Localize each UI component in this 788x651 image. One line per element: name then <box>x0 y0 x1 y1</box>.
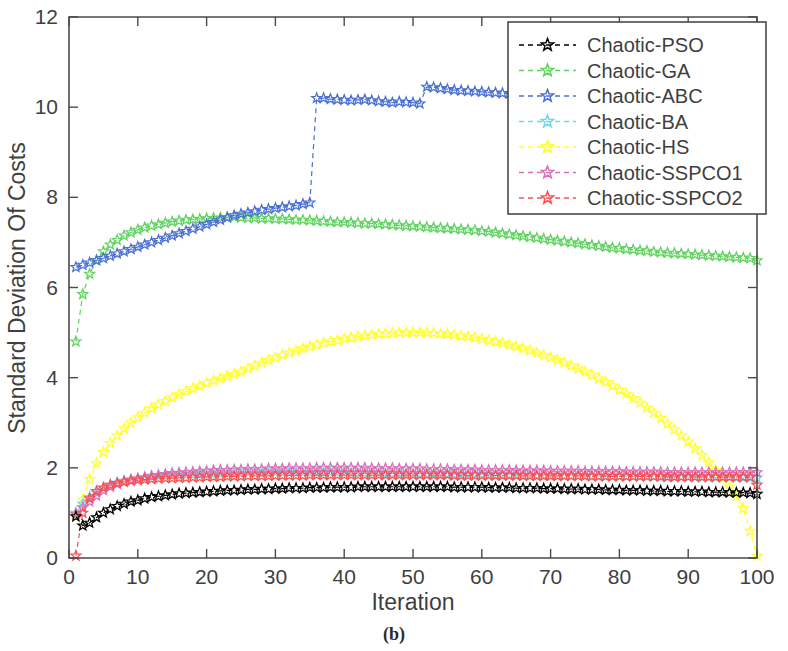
y-tick-label: 0 <box>46 546 58 569</box>
figure-panel: 0102030405060708090100 024681012 Iterati… <box>0 0 788 651</box>
legend-label: Chaotic-BA <box>587 111 689 133</box>
y-tick-label: 6 <box>46 276 58 299</box>
y-tick-label: 4 <box>46 366 58 389</box>
y-tick-label: 8 <box>46 185 58 208</box>
legend-label: Chaotic-GA <box>587 60 691 82</box>
legend-label: Chaotic-ABC <box>587 85 703 107</box>
legend: Chaotic-PSOChaotic-GAChaotic-ABCChaotic-… <box>508 22 766 214</box>
y-tick-label: 10 <box>35 95 58 118</box>
x-tick-label: 60 <box>470 565 493 588</box>
series-chaotic-hs <box>71 327 762 560</box>
standard-deviation-of-costs-chart: 0102030405060708090100 024681012 Iterati… <box>0 0 788 651</box>
data-point-star-icon <box>745 472 755 481</box>
y-axis-title: Standard Deviation Of Costs <box>4 142 30 433</box>
x-tick-label: 10 <box>126 565 149 588</box>
series-chaotic-pso <box>71 482 762 530</box>
x-tick-label: 30 <box>264 565 287 588</box>
series-line <box>76 333 757 556</box>
legend-label: Chaotic-SSPCO2 <box>587 187 743 209</box>
legend-label: Chaotic-SSPCO1 <box>587 162 743 184</box>
data-point-star-icon <box>85 269 95 278</box>
legend-label: Chaotic-HS <box>587 136 689 158</box>
x-tick-label: 90 <box>677 565 700 588</box>
x-tick-label: 70 <box>539 565 562 588</box>
x-tick-label: 50 <box>401 565 424 588</box>
legend-label: Chaotic-PSO <box>587 34 704 56</box>
x-tick-label: 100 <box>739 565 774 588</box>
x-tick-label: 40 <box>333 565 356 588</box>
data-point-star-icon <box>738 503 748 512</box>
y-tick-label: 2 <box>46 456 58 479</box>
x-tick-label: 0 <box>63 565 75 588</box>
figure-caption: (b) <box>383 624 405 645</box>
series-chaotic-sspco2 <box>71 470 762 560</box>
y-tick-label: 12 <box>35 5 58 28</box>
x-tick-label: 80 <box>608 565 631 588</box>
x-axis-title: Iteration <box>371 589 454 615</box>
x-tick-label: 20 <box>195 565 218 588</box>
